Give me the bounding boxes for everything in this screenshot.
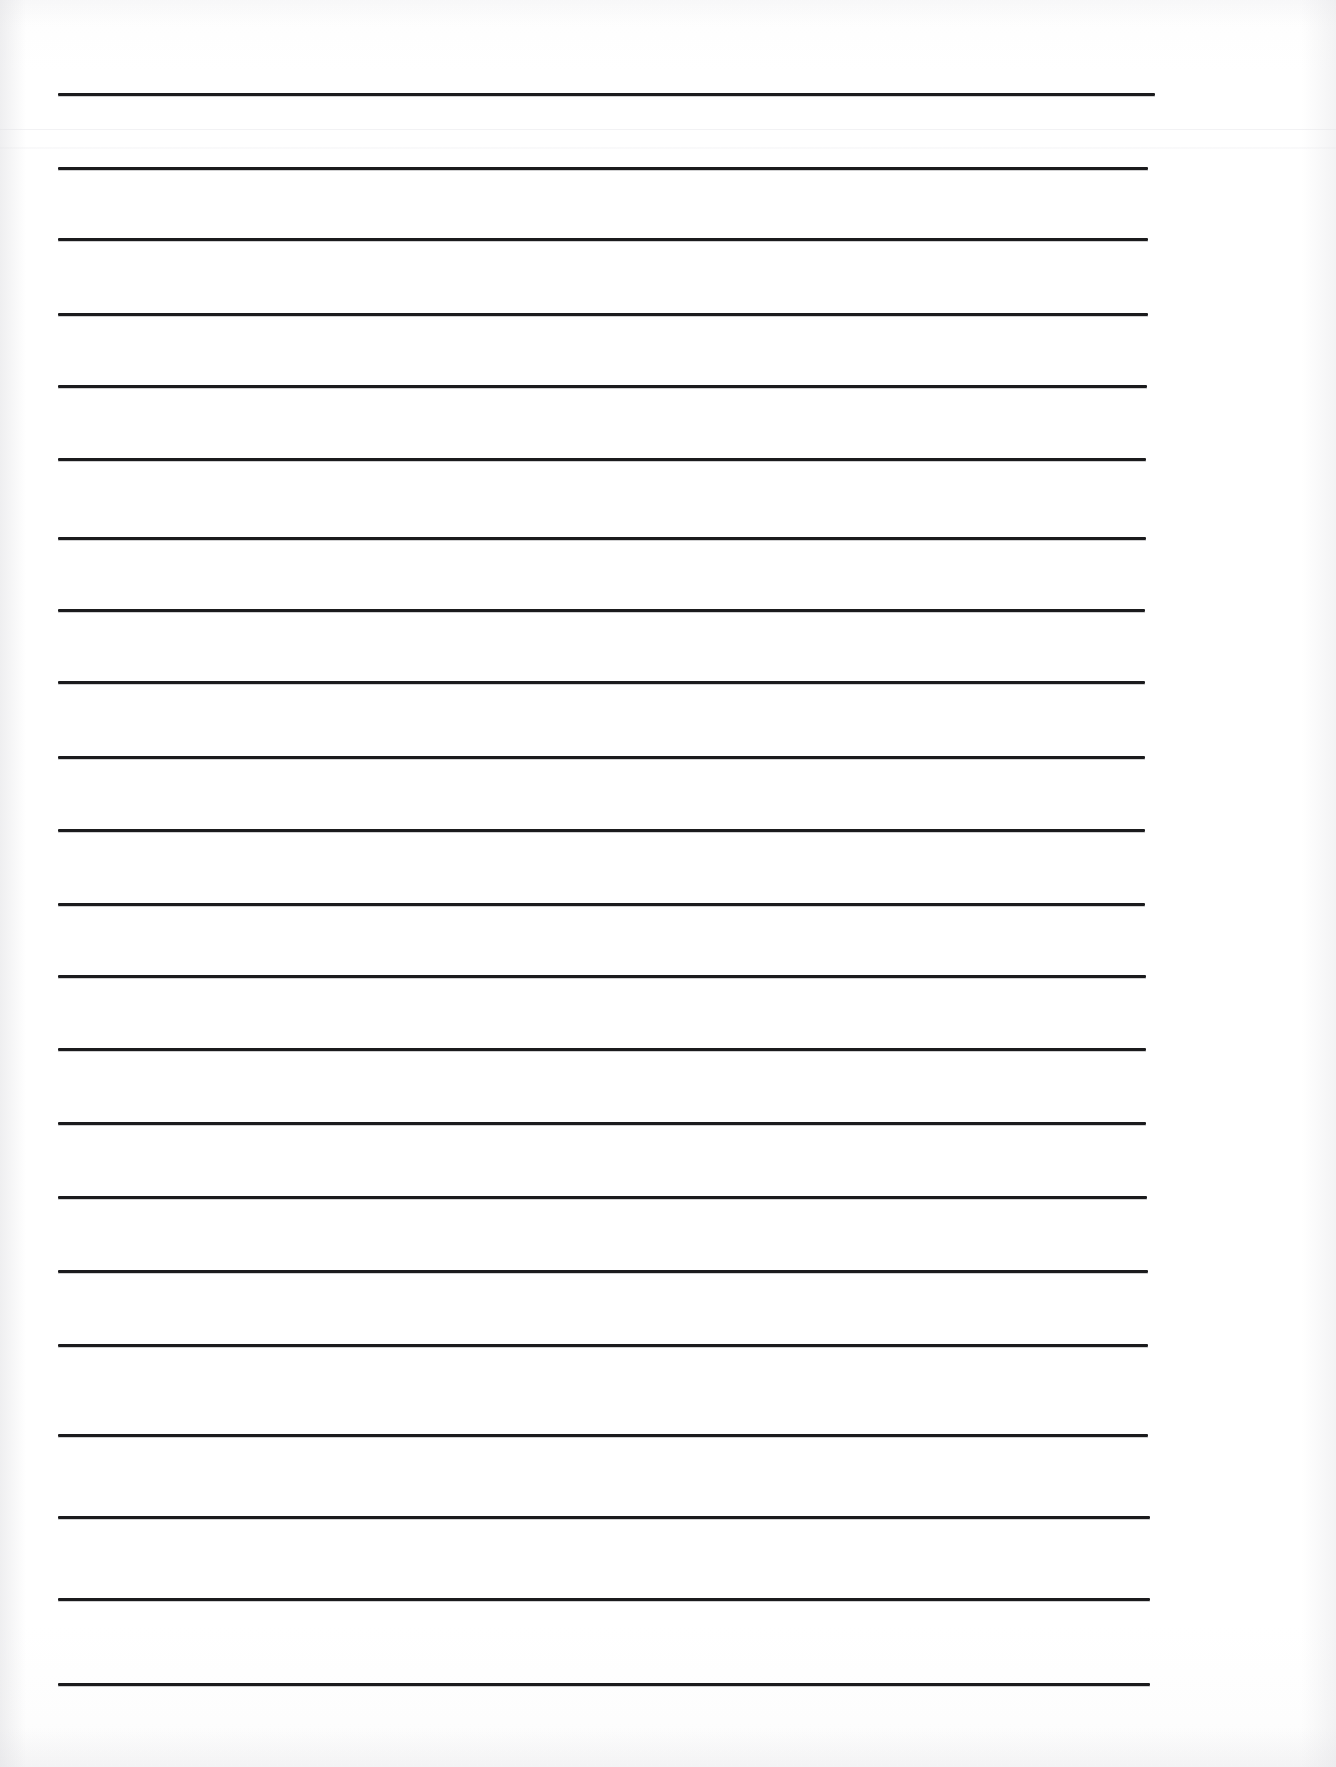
ruled-line xyxy=(58,1196,1147,1199)
ruled-line xyxy=(58,1270,1148,1273)
ruled-line xyxy=(58,238,1148,241)
ruled-line xyxy=(58,829,1145,832)
ruled-line xyxy=(58,458,1146,461)
ruled-line xyxy=(58,313,1148,316)
paper-surface xyxy=(0,0,1336,1767)
ruled-line xyxy=(58,756,1145,759)
ruled-line xyxy=(58,385,1147,388)
ruled-line xyxy=(58,903,1145,906)
ruled-line xyxy=(58,681,1145,684)
ruled-line xyxy=(58,537,1146,540)
ruled-line xyxy=(58,609,1145,612)
ruled-line xyxy=(58,1434,1148,1437)
ruled-line xyxy=(58,975,1146,978)
ruled-line xyxy=(58,1516,1150,1519)
ruled-line xyxy=(58,1598,1150,1601)
scanned-page: Blank Lined Writing Paper xyxy=(0,0,1336,1767)
ruled-line xyxy=(58,1344,1148,1347)
ruled-line xyxy=(58,1683,1150,1686)
ruled-line xyxy=(58,93,1155,96)
ruled-line xyxy=(58,167,1148,170)
ruled-line xyxy=(58,1048,1146,1051)
ruled-line xyxy=(58,1122,1146,1125)
